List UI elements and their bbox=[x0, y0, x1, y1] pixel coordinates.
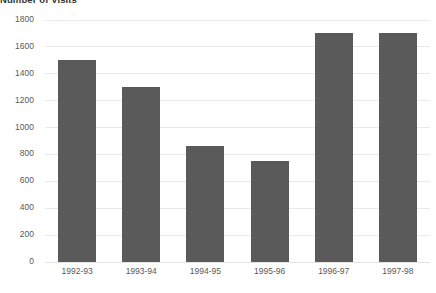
x-axis-tick-label: 1992-93 bbox=[45, 266, 109, 276]
x-axis-tick-label: 1993-94 bbox=[109, 266, 173, 276]
y-axis-tick-label: 400 bbox=[0, 202, 34, 212]
bar bbox=[379, 33, 417, 262]
bar bbox=[315, 33, 353, 262]
y-axis-tick-label: 1600 bbox=[0, 41, 34, 51]
y-axis-tick-label: 1200 bbox=[0, 95, 34, 105]
x-axis-tick-label: 1997-98 bbox=[366, 266, 430, 276]
y-axis-tick-label: 1800 bbox=[0, 14, 34, 24]
x-axis-labels: 1992-931993-941994-951995-961996-971997-… bbox=[45, 266, 430, 286]
chart-title: Number of Visits bbox=[0, 0, 77, 5]
x-axis-tick-label: 1994-95 bbox=[173, 266, 237, 276]
y-axis-tick-label: 200 bbox=[0, 229, 34, 239]
y-axis-tick-label: 600 bbox=[0, 175, 34, 185]
bar bbox=[186, 146, 224, 262]
bar bbox=[58, 60, 96, 262]
y-axis-tick-label: 1400 bbox=[0, 68, 34, 78]
x-axis-tick-label: 1995-96 bbox=[238, 266, 302, 276]
bar bbox=[251, 161, 289, 262]
bar-chart: Number of Visits 02004006008001000120014… bbox=[0, 0, 436, 293]
x-axis-tick-label: 1996-97 bbox=[302, 266, 366, 276]
y-axis-tick-label: 0 bbox=[0, 256, 34, 266]
bars-layer bbox=[45, 20, 430, 262]
y-axis-tick-label: 1000 bbox=[0, 122, 34, 132]
y-axis-tick-label: 800 bbox=[0, 148, 34, 158]
bar bbox=[122, 87, 160, 262]
